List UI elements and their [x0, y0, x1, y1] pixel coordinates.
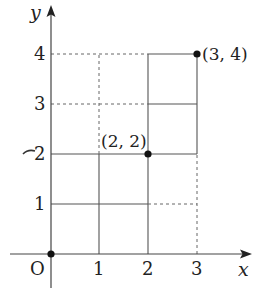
point-2-2	[144, 150, 151, 157]
point-3-4	[193, 50, 200, 57]
origin-label: O	[30, 258, 45, 279]
y-tick-1: 1	[34, 193, 45, 214]
point-label-3-4: (3, 4)	[202, 44, 248, 64]
y-tick-3: 3	[34, 93, 45, 114]
point-label-2-2: (2, 2)	[101, 131, 147, 151]
y-axis-label: y	[29, 1, 41, 23]
y-tick-2: 2	[34, 143, 45, 164]
point-origin	[47, 250, 54, 257]
x-tick-2: 2	[142, 258, 153, 279]
y-tick-4: 4	[34, 43, 45, 64]
x-axis-label: x	[238, 258, 249, 280]
x-tick-3: 3	[191, 258, 202, 279]
grid-solid-lines	[51, 54, 197, 254]
x-tick-1: 1	[93, 258, 104, 279]
coordinate-diagram: y x O 1 2 3 1 2 3 4 (2, 2) (3, 4)	[0, 0, 258, 292]
